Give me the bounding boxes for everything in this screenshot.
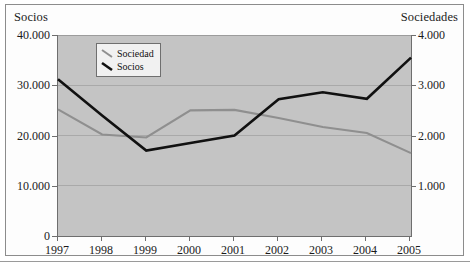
x-axis-tick-2004: 2004	[342, 243, 388, 258]
x-axis-tick-2002: 2002	[254, 243, 300, 258]
x-axis-tick-2003: 2003	[298, 243, 344, 258]
x-axis-tick-1999: 1999	[122, 243, 168, 258]
y-axis-tick-left-40000: 40.000	[2, 28, 50, 43]
y-axis-tick-right-2000: 2.000	[418, 129, 468, 144]
y-axis-tick-left-10000: 10.000	[2, 179, 50, 194]
y-axis-tick-left-30000: 30.000	[2, 78, 50, 93]
right-axis-title: Sociedades	[401, 10, 458, 25]
y-axis-tick-left-20000: 20.000	[2, 129, 50, 144]
chart-figure: Socios Sociedades 40.000 30.000 20.000 1…	[0, 0, 470, 269]
legend-item-socios[interactable]: Socios	[101, 60, 154, 73]
legend-label-socios: Socios	[117, 61, 144, 72]
y-axis-tick-right-4000: 4.000	[418, 28, 468, 43]
x-axis-tick-1998: 1998	[78, 243, 124, 258]
x-axis-line	[57, 236, 412, 237]
line-swatch-icon	[101, 48, 114, 59]
line-swatch-icon	[101, 61, 114, 72]
y-axis-tick-right-3000: 3.000	[418, 78, 468, 93]
left-axis-title: Socios	[14, 10, 48, 25]
legend-item-sociedad[interactable]: Sociedad	[101, 47, 154, 60]
x-axis-tick-1997: 1997	[34, 243, 80, 258]
x-axis-tick-2005: 2005	[386, 243, 432, 258]
bottom-divider	[0, 261, 470, 262]
legend-label-sociedad: Sociedad	[117, 48, 154, 59]
chart-legend[interactable]: Sociedad Socios	[96, 43, 161, 77]
y-axis-tick-right-1000: 1.000	[418, 179, 468, 194]
x-axis-tick-2001: 2001	[210, 243, 256, 258]
y-axis-tick-left-0: 0	[2, 229, 50, 244]
series-line-sociedad	[58, 109, 411, 153]
x-axis-tick-2000: 2000	[166, 243, 212, 258]
